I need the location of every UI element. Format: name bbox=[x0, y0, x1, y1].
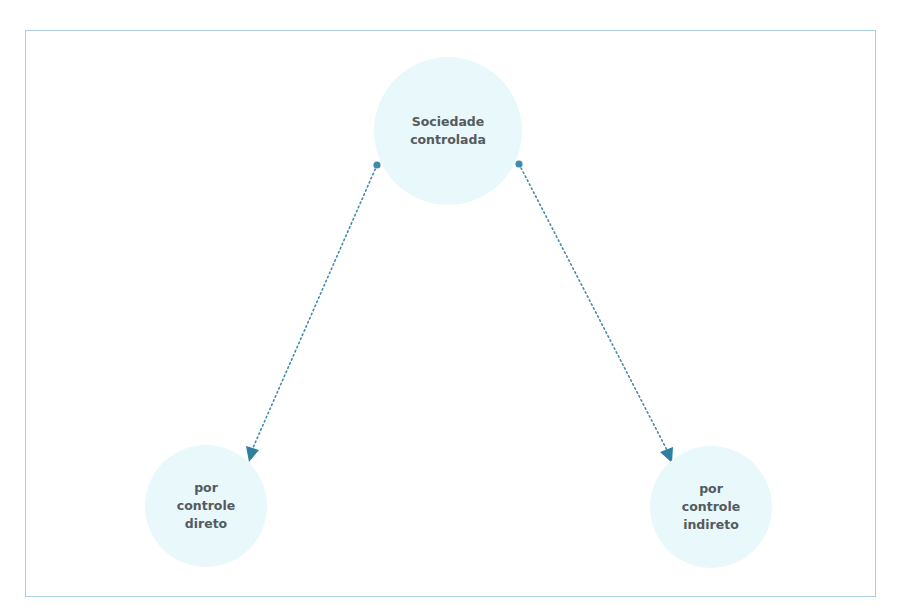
edge-root-to-right bbox=[515, 160, 673, 463]
node-label: Sociedade controlada bbox=[410, 113, 486, 149]
node-label: por controle indireto bbox=[682, 480, 740, 534]
node-controle-direto: por controle direto bbox=[145, 445, 267, 567]
node-sociedade-controlada: Sociedade controlada bbox=[374, 57, 522, 205]
node-controle-indireto: por controle indireto bbox=[650, 446, 772, 568]
edge-root-to-left bbox=[246, 161, 381, 462]
node-label: por controle direto bbox=[177, 479, 235, 533]
edge-start-dot-icon bbox=[515, 160, 522, 167]
arrowhead-icon bbox=[246, 446, 259, 462]
edge-start-dot-icon bbox=[373, 161, 380, 168]
